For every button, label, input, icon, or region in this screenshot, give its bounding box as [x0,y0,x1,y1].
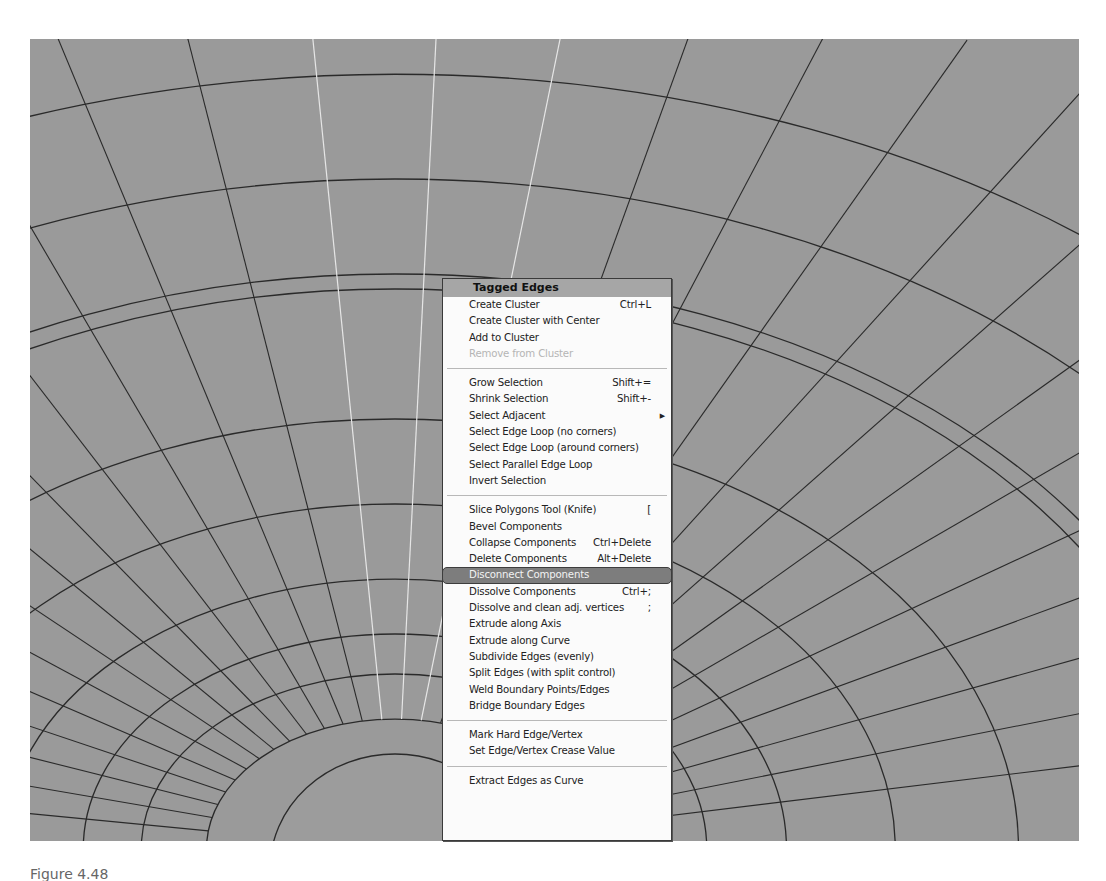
menu-item-select-edge-loop-no-corners[interactable]: Select Edge Loop (no corners) [443,424,671,440]
mesh-radial-edge [30,224,259,759]
menu-item-label: Add to Cluster [469,332,539,343]
selected-edge [304,39,382,719]
menu-item-shrink-selection[interactable]: Shrink SelectionShift+- [443,391,671,407]
menu-item-create-cluster[interactable]: Create ClusterCtrl+L [443,297,671,313]
menu-item-label: Select Adjacent [469,410,545,421]
menu-item-label: Extrude along Curve [469,635,570,646]
menu-separator [447,495,667,496]
menu-item-shortcut: Alt+Delete [597,551,651,567]
menu-item-label: Select Parallel Edge Loop [469,459,592,470]
menu-item-label: Create Cluster with Center [469,315,599,326]
menu-separator [447,720,667,721]
mesh-radial-edge [30,54,307,734]
menu-item-shortcut: Ctrl+L [620,297,651,313]
menu-item-label: Disconnect Components [469,569,589,580]
figure-caption: Figure 4.48 [30,866,108,881]
menu-item-label: Extrude along Axis [469,618,561,629]
menu-item-label: Select Edge Loop (no corners) [469,426,616,437]
menu-item-shortcut: Shift+= [612,375,651,391]
menu-separator [447,766,667,767]
menu-item-label: Delete Components [469,553,567,564]
menu-item-label: Shrink Selection [469,393,548,404]
menu-item-dissolve-components[interactable]: Dissolve ComponentsCtrl+; [443,584,671,600]
menu-item-label: Dissolve and clean adj. vertices [469,602,624,613]
mesh-radial-edge [30,541,218,804]
mesh-radial-edge [168,39,362,721]
menu-item-set-edge-vertex-crease-value[interactable]: Set Edge/Vertex Crease Value [443,743,671,759]
menu-item-label: Invert Selection [469,475,546,486]
menu-item-bevel-components[interactable]: Bevel Components [443,519,671,535]
menu-item-dissolve-and-clean-adj-vertices[interactable]: Dissolve and clean adj. vertices; [443,600,671,616]
context-menu: Tagged Edges Create ClusterCtrl+LCreate … [442,278,672,841]
menu-item-label: Grow Selection [469,377,543,388]
menu-item-shortcut: Shift+- [617,391,651,407]
menu-item-extract-edges-as-curve[interactable]: Extract Edges as Curve [443,773,671,789]
menu-item-weld-boundary-points-edges[interactable]: Weld Boundary Points/Edges [443,682,671,698]
menu-item-select-edge-loop-around-corners[interactable]: Select Edge Loop (around corners) [443,440,671,456]
menu-item-invert-selection[interactable]: Invert Selection [443,473,671,489]
menu-item-shortcut: [ [647,502,651,518]
menu-item-extrude-along-curve[interactable]: Extrude along Curve [443,633,671,649]
menu-item-label: Create Cluster [469,299,539,310]
mesh-radial-edge [30,631,212,817]
mesh-radial-edge [30,160,274,750]
menu-item-label: Set Edge/Vertex Crease Value [469,745,615,756]
menu-item-label: Bridge Boundary Edges [469,700,585,711]
menu-body: Create ClusterCtrl+LCreate Cluster with … [443,297,671,789]
menu-item-subdivide-edges-evenly[interactable]: Subdivide Edges (evenly) [443,649,671,665]
menu-item-mark-hard-edge-vertex[interactable]: Mark Hard Edge/Vertex [443,727,671,743]
menu-item-label: Dissolve Components [469,586,576,597]
menu-item-shortcut: ; [648,600,651,616]
menu-item-label: Extract Edges as Curve [469,775,583,786]
menu-item-label: Select Edge Loop (around corners) [469,442,639,453]
menu-item-label: Collapse Components [469,537,576,548]
mesh-radial-edge [30,295,246,769]
menu-item-bridge-boundary-edges[interactable]: Bridge Boundary Edges [443,698,671,714]
mesh-radial-edge [30,372,235,780]
menu-item-grow-selection[interactable]: Grow SelectionShift+= [443,375,671,391]
menu-separator [447,368,667,369]
menu-item-label: Remove from Cluster [469,348,573,359]
menu-title: Tagged Edges [443,279,671,297]
menu-item-label: Mark Hard Edge/Vertex [469,729,583,740]
menu-item-disconnect-components[interactable]: Disconnect Components [442,567,672,583]
submenu-arrow-icon: ▶ [660,408,665,424]
selected-edge [402,39,441,719]
menu-item-extrude-along-axis[interactable]: Extrude along Axis [443,616,671,632]
menu-item-remove-from-cluster[interactable]: Remove from Cluster [443,346,671,362]
menu-item-shortcut: Ctrl+; [622,584,651,600]
menu-item-collapse-components[interactable]: Collapse ComponentsCtrl+Delete [443,535,671,551]
menu-item-select-adjacent[interactable]: Select Adjacent▶ [443,408,671,424]
menu-item-create-cluster-with-center[interactable]: Create Cluster with Center [443,313,671,329]
menu-item-label: Bevel Components [469,521,562,532]
menu-item-shortcut: Ctrl+Delete [593,535,651,551]
mesh-radial-edge [35,39,343,724]
menu-item-slice-polygons-tool-knife[interactable]: Slice Polygons Tool (Knife)[ [443,502,671,518]
menu-item-delete-components[interactable]: Delete ComponentsAlt+Delete [443,551,671,567]
menu-item-select-parallel-edge-loop[interactable]: Select Parallel Edge Loop [443,457,671,473]
menu-item-split-edges-with-split-control[interactable]: Split Edges (with split control) [443,665,671,681]
menu-item-label: Weld Boundary Points/Edges [469,684,609,695]
menu-item-label: Subdivide Edges (evenly) [469,651,594,662]
menu-item-label: Split Edges (with split control) [469,667,615,678]
menu-item-label: Slice Polygons Tool (Knife) [469,504,596,515]
menu-item-add-to-cluster[interactable]: Add to Cluster [443,330,671,346]
